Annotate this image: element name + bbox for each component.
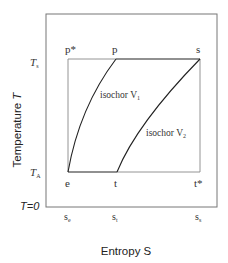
point-label-t-star: t* bbox=[194, 177, 203, 189]
curve-label-isochor-v2: isochor V2 bbox=[146, 128, 186, 139]
point-label-p: p bbox=[112, 43, 118, 55]
curve-label-isochor-v1: isochor V1 bbox=[100, 90, 140, 101]
point-label-s: s bbox=[196, 43, 200, 55]
y-tick-T-s: Ts bbox=[30, 56, 39, 69]
isochor-v2-curve bbox=[117, 59, 200, 172]
y-tick-T-zero: T=0 bbox=[20, 200, 40, 212]
point-label-e: e bbox=[65, 177, 70, 189]
x-tick-s-s: ss bbox=[195, 211, 202, 223]
point-label-p-star: p* bbox=[65, 43, 76, 55]
ts-diagram: p* p s e t t* isochor V1 isochor V2 Ts T… bbox=[0, 0, 228, 263]
isochor-v1-curve bbox=[68, 59, 116, 172]
x-axis-title: Entropy S bbox=[101, 245, 152, 257]
x-tick-s-e: se bbox=[64, 211, 71, 223]
y-axis-title: Temperature T bbox=[11, 92, 23, 168]
y-tick-T-A: TA bbox=[30, 166, 41, 179]
point-label-t: t bbox=[114, 177, 117, 189]
x-tick-s-t: st bbox=[112, 211, 118, 223]
